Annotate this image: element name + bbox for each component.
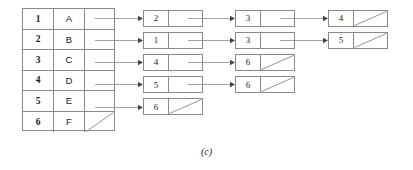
list-node-value: 4 [329,11,354,26]
connector-arrow [188,36,235,45]
null-pointer-slash-icon [169,99,202,114]
connector-arrow [188,58,235,67]
list-node-value: 5 [329,33,354,48]
connector-arrow [280,14,328,23]
adjacency-list-figure: 1 A 2 B 3 C 4 D 5 E 6 F [0,0,413,170]
list-node: 4 [328,10,388,27]
list-node-value: 1 [144,33,169,48]
list-node-value: 3 [236,33,261,48]
list-node-value: 3 [236,11,261,26]
vertex-table: 1 A 2 B 3 C 4 D 5 E 6 F [22,8,115,131]
vertex-index-cell: 6 [23,112,54,133]
null-pointer-slash-icon [85,112,114,133]
vertex-index-cell: 5 [23,91,54,111]
connector-arrow [188,14,235,23]
connector-arrow [280,36,328,45]
null-pointer-slash-icon [261,55,294,70]
list-node-value: 6 [144,99,169,114]
connector-arrow [95,58,143,67]
list-node: 6 [143,98,203,115]
list-node-link [169,99,202,114]
list-node: 5 [328,32,388,49]
connector-arrow [95,36,143,45]
vertex-index-cell: 2 [23,30,54,50]
list-node-value: 6 [236,77,261,92]
list-node-link [261,77,294,92]
vertex-name-cell: F [54,112,85,133]
null-pointer-slash-icon [261,77,294,92]
list-node-value: 2 [144,11,169,26]
list-node: 6 [235,54,295,71]
vertex-index-cell: 3 [23,50,54,70]
vertex-name-cell: C [54,50,85,70]
connector-arrow [188,80,235,89]
list-node-link [354,11,387,26]
figure-caption: (c) [0,146,413,157]
connector-arrow [95,80,143,89]
table-row: 6 F [23,112,114,133]
vertex-index-cell: 1 [23,9,54,29]
null-pointer-slash-icon [354,11,387,26]
vertex-name-cell: A [54,9,85,29]
list-node-link [261,55,294,70]
list-node: 6 [235,76,295,93]
list-node-value: 6 [236,55,261,70]
vertex-pointer-cell [85,112,114,133]
vertex-name-cell: B [54,30,85,50]
connector-arrow [95,14,143,23]
null-pointer-slash-icon [354,33,387,48]
list-node-value: 4 [144,55,169,70]
vertex-name-cell: D [54,71,85,91]
list-node-link [354,33,387,48]
vertex-index-cell: 4 [23,71,54,91]
vertex-name-cell: E [54,91,85,111]
connector-arrow [95,103,143,112]
list-node-value: 5 [144,77,169,92]
